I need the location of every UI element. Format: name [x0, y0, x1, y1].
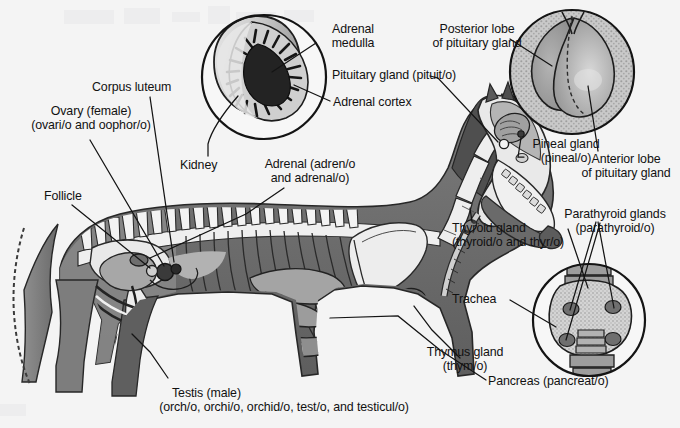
label-posterior-lobe: Posterior lobe of pituitary gland	[414, 22, 540, 50]
label-kidney: Kidney	[180, 158, 217, 172]
label-pineal-gland: Pineal gland (pineal/o)	[524, 137, 608, 165]
label-parathyroid-glands: Parathyroid glands (parathyroid/o)	[552, 207, 678, 235]
label-thyroid-gland: Thyroid gland (thyroid/o and thyr/o)	[452, 221, 564, 249]
label-testis: Testis (male) (orch/o, orchi/o, orchid/o…	[94, 386, 474, 414]
label-adrenal-cortex: Adrenal cortex	[333, 95, 412, 109]
label-trachea: Trachea	[452, 292, 496, 306]
label-pancreas: Pancreas (pancreat/o)	[488, 374, 609, 388]
ovary-organ	[157, 264, 174, 281]
pituitary-organ	[499, 139, 508, 148]
label-adrenal-medulla: Adrenal medulla	[318, 22, 388, 50]
endocrine-diagram-figure: Adrenal medulla Adrenal cortex Pituitary…	[0, 0, 680, 428]
corpus-luteum-organ	[171, 264, 181, 274]
label-corpus-luteum: Corpus luteum	[92, 80, 171, 94]
label-follicle: Follicle	[44, 189, 82, 203]
label-thymus-gland: Thymus gland (thym/o)	[410, 345, 520, 373]
kidney-adrenal-inset	[202, 15, 326, 139]
label-ovary: Ovary (female) (ovari/o and oophor/o)	[12, 104, 170, 132]
parathyroid-4	[605, 333, 621, 346]
label-adrenal: Adrenal (adren/o and adrenal/o)	[248, 157, 372, 185]
label-pituitary-gland: Pituitary gland (pituit/o)	[332, 68, 456, 82]
